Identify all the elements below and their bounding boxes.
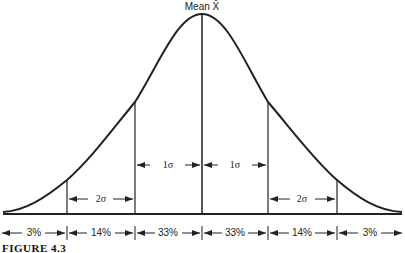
percent-region-6: 3% bbox=[339, 227, 402, 238]
mean-label: Mean X̄ bbox=[185, 0, 220, 12]
percent-region-1: 3% bbox=[2, 227, 65, 238]
svg-text:14%: 14% bbox=[91, 227, 111, 238]
figure-caption: FIGURE 4.3 bbox=[2, 242, 66, 253]
svg-text:33%: 33% bbox=[225, 227, 245, 238]
sigma-1-left-annotation: 1σ bbox=[137, 159, 200, 170]
percent-region-2: 14% bbox=[69, 227, 133, 238]
svg-text:3%: 3% bbox=[27, 227, 42, 238]
percent-region-3: 33% bbox=[137, 227, 200, 238]
svg-text:2σ: 2σ bbox=[297, 193, 308, 204]
sigma-1-right-annotation: 1σ bbox=[204, 159, 266, 170]
svg-text:1σ: 1σ bbox=[163, 159, 174, 170]
svg-text:14%: 14% bbox=[292, 227, 312, 238]
sigma-2-right-annotation: 2σ bbox=[270, 193, 335, 204]
svg-text:2σ: 2σ bbox=[96, 193, 107, 204]
percent-region-4: 33% bbox=[204, 227, 266, 238]
normal-curve-diagram: Mean X̄ 1σ 1σ 2σ 2σ 3% 14% bbox=[0, 0, 405, 253]
sigma-2-left-annotation: 2σ bbox=[69, 193, 133, 204]
percent-region-5: 14% bbox=[270, 227, 335, 238]
svg-text:33%: 33% bbox=[158, 227, 178, 238]
svg-text:1σ: 1σ bbox=[230, 159, 241, 170]
svg-text:3%: 3% bbox=[363, 227, 378, 238]
